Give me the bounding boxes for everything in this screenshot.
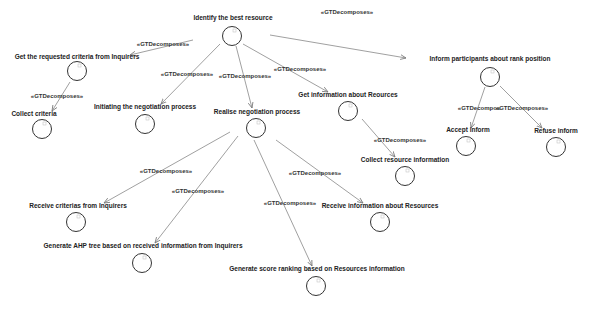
edge-stereotype-label: «GTDecomposes»: [321, 8, 373, 16]
edge-stereotype-label: «GTDecomposes»: [496, 104, 548, 112]
goal-node-label[interactable]: Inform participants about rank position: [430, 55, 551, 63]
goal-node-circle[interactable]: [457, 137, 476, 156]
decomposes-edge[interactable]: [270, 35, 406, 58]
goal-node-circle[interactable]: [133, 254, 152, 273]
edge-layer: [0, 0, 589, 310]
goal-diagram-canvas: «GTDecomposes»«GTDecomposes»«GTDecompose…: [0, 0, 589, 310]
edge-stereotype-label: «GTDecomposes»: [161, 70, 213, 78]
edge-stereotype-label: «GTDecomposes»: [31, 92, 83, 100]
edge-stereotype-label: «GTDecomposes»: [374, 136, 426, 144]
edge-stereotype-label: «GTDecomposes»: [137, 40, 189, 48]
goal-node-label[interactable]: Get information about Reources: [298, 91, 397, 99]
edge-stereotype-label: «GTDecomposes»: [264, 199, 316, 207]
goal-node-label[interactable]: Realise negotiation process: [214, 108, 300, 116]
goal-node-circle[interactable]: [396, 167, 415, 186]
goal-node-circle[interactable]: [67, 213, 86, 232]
goal-node-circle[interactable]: [307, 277, 326, 296]
edge-stereotype-label: «GTDecomposes»: [140, 167, 192, 175]
goal-node-circle[interactable]: [371, 213, 390, 232]
goal-node-label[interactable]: Accept inform: [446, 126, 490, 134]
edge-stereotype-label: «GTDecomposes»: [289, 169, 341, 177]
goal-node-circle[interactable]: [247, 119, 266, 138]
goal-node-label[interactable]: Generate AHP tree based on received info…: [43, 242, 242, 250]
edge-stereotype-label: «GTDecomposes»: [219, 72, 271, 80]
edge-stereotype-label: «GTDecomposes»: [172, 187, 224, 195]
goal-node-circle[interactable]: [547, 138, 566, 157]
edge-stereotype-label: «GTDecompos: [458, 104, 500, 112]
goal-node-circle[interactable]: [339, 102, 358, 121]
goal-node-label[interactable]: Identify the best resource: [193, 14, 272, 22]
goal-node-label[interactable]: Refuse inform: [534, 127, 578, 135]
edge-stereotype-label: «GTDecomposes»: [274, 65, 326, 73]
goal-node-circle[interactable]: [481, 68, 500, 87]
goal-node-label[interactable]: Initiating the negotiation process: [94, 103, 196, 111]
goal-node-label[interactable]: Get the requested criteria from Inquirer…: [15, 53, 140, 61]
goal-node-circle[interactable]: [33, 120, 52, 139]
goal-node-circle[interactable]: [223, 27, 242, 46]
goal-node-circle[interactable]: [136, 115, 155, 134]
goal-node-label[interactable]: Generate score ranking based on Resource…: [229, 265, 405, 273]
goal-node-label[interactable]: Collect resource information: [361, 156, 450, 164]
goal-node-label[interactable]: Collect criteria: [11, 110, 56, 118]
goal-node-label[interactable]: Receive criterias from Inquirers: [29, 202, 127, 210]
goal-node-circle[interactable]: [68, 62, 87, 81]
goal-node-label[interactable]: Receive information about Resources: [322, 202, 439, 210]
